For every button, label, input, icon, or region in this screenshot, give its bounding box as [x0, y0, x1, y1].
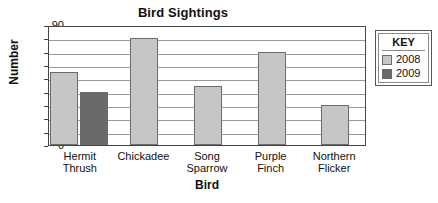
plot-area [48, 26, 366, 146]
x-tick-label-line: Chickadee [112, 150, 176, 162]
x-tick-label-line: Northern [302, 150, 366, 162]
legend-inner: KEY 20082009 [378, 33, 429, 83]
bar [321, 105, 349, 145]
gridline [49, 80, 365, 81]
x-tick-label-line: Finch [239, 162, 303, 174]
gridline [49, 40, 365, 41]
bar [50, 72, 78, 145]
chart-title: Bird Sightings [0, 5, 366, 20]
gridline [49, 54, 365, 55]
legend-swatch [382, 69, 392, 79]
x-tick-label-line: Sparrow [175, 162, 239, 174]
gridline [49, 67, 365, 68]
x-tick-label-line: Song [175, 150, 239, 162]
x-tick-label-line: Flicker [302, 162, 366, 174]
x-axis-label: Bird [48, 178, 366, 192]
bird-sightings-chart: Bird Sightings Number 908070605040302010… [0, 0, 438, 203]
legend-title: KEY [382, 36, 425, 51]
x-tick-label: PurpleFinch [239, 150, 303, 174]
x-tick-label: NorthernFlicker [302, 150, 366, 174]
x-tick-label-line: Hermit [48, 150, 112, 162]
x-tick-label: Chickadee [112, 150, 176, 162]
legend-item: 2009 [382, 68, 425, 79]
bar [258, 52, 286, 145]
bar [194, 86, 222, 145]
legend-swatch [382, 55, 392, 65]
legend-item: 2008 [382, 54, 425, 65]
legend: KEY 20082009 [375, 30, 432, 86]
x-tick-label-line: Purple [239, 150, 303, 162]
x-tick-label: HermitThrush [48, 150, 112, 174]
bar [130, 38, 158, 145]
x-tick-label-line: Thrush [48, 162, 112, 174]
bar [80, 92, 108, 145]
legend-label: 2008 [396, 54, 420, 65]
legend-rows: 20082009 [382, 54, 425, 79]
y-tick-mark [44, 146, 48, 147]
x-tick-label: SongSparrow [175, 150, 239, 174]
legend-label: 2009 [396, 68, 420, 79]
y-axis-label: Number [7, 32, 21, 92]
